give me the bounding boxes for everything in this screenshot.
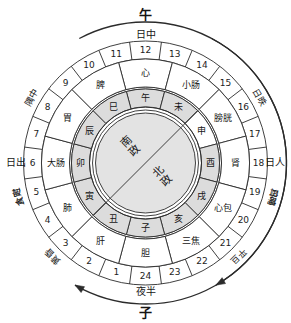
branch-label-午: 午 xyxy=(141,94,150,103)
hour-number-5: 5 xyxy=(33,188,39,197)
cardinal-bottom-branch: 子 xyxy=(139,306,152,319)
hour-number-22: 22 xyxy=(196,256,207,265)
hour-number-13: 13 xyxy=(169,49,180,58)
organ-label-脾: 脾 xyxy=(96,81,105,90)
hour-number-10: 10 xyxy=(83,61,94,70)
cardinal-top-branch: 午 xyxy=(139,8,152,21)
branch-label-亥: 亥 xyxy=(174,215,183,224)
branch-label-卯: 卯 xyxy=(76,159,85,168)
cardinal-top-period: 日中 xyxy=(136,30,156,40)
cardinal-left-period: 日出 xyxy=(6,158,26,168)
hour-number-23: 23 xyxy=(169,268,180,277)
clock-diagram: 午日中夜半子日出日人隅中食时平旦鸡鸣日昳日晡黄昏人定12345678910111… xyxy=(0,0,291,323)
organ-label-膀胱: 膀胱 xyxy=(214,114,232,123)
branch-label-未: 未 xyxy=(174,102,183,111)
cardinal-right-period: 日人 xyxy=(265,158,285,168)
organ-label-肝: 肝 xyxy=(96,236,105,245)
branch-label-酉: 酉 xyxy=(206,159,215,168)
hour-number-18: 18 xyxy=(253,159,264,168)
hour-number-16: 16 xyxy=(238,102,249,111)
organ-label-三焦: 三焦 xyxy=(182,236,200,245)
hour-number-3: 3 xyxy=(63,238,69,247)
hour-number-17: 17 xyxy=(249,129,260,138)
branch-label-巳: 巳 xyxy=(109,102,118,111)
organ-label-大肠: 大肠 xyxy=(47,159,65,168)
hour-number-1: 1 xyxy=(113,268,119,277)
hour-number-19: 19 xyxy=(249,188,260,197)
hour-number-11: 11 xyxy=(111,49,122,58)
branch-label-寅: 寅 xyxy=(85,191,94,200)
hour-number-21: 21 xyxy=(220,238,231,247)
organ-label-肾: 肾 xyxy=(231,159,240,168)
hour-number-12: 12 xyxy=(140,46,151,55)
organ-label-胆: 胆 xyxy=(141,249,150,258)
hour-number-14: 14 xyxy=(196,61,207,70)
organ-label-心包: 心包 xyxy=(214,204,232,213)
hour-number-15: 15 xyxy=(220,79,231,88)
hour-number-8: 8 xyxy=(45,102,51,111)
branch-label-辰: 辰 xyxy=(85,126,94,135)
hour-number-9: 9 xyxy=(63,79,69,88)
branch-label-申: 申 xyxy=(197,126,206,135)
organ-label-肺: 肺 xyxy=(63,204,72,213)
hour-number-24: 24 xyxy=(140,272,151,281)
hour-number-7: 7 xyxy=(33,129,39,138)
hour-number-4: 4 xyxy=(45,215,51,224)
hour-number-2: 2 xyxy=(86,256,92,265)
organ-label-心: 心 xyxy=(141,69,150,78)
branch-label-子: 子 xyxy=(141,224,150,233)
hour-number-6: 6 xyxy=(30,159,36,168)
hour-number-20: 20 xyxy=(238,215,249,224)
cardinal-bottom-period: 夜半 xyxy=(136,287,156,297)
organ-label-小肠: 小肠 xyxy=(182,81,200,90)
organ-label-胃: 胃 xyxy=(63,114,72,123)
branch-label-戌: 戌 xyxy=(197,191,206,200)
branch-label-丑: 丑 xyxy=(109,215,118,224)
